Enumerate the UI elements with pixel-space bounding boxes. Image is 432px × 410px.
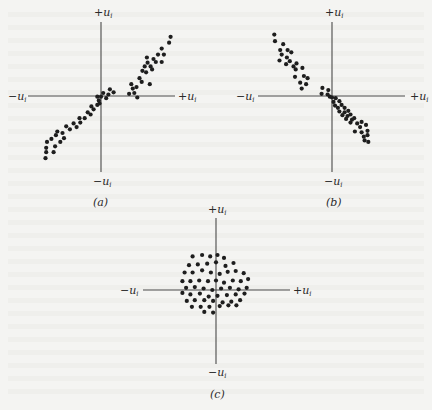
panel-c-point <box>234 269 238 273</box>
panel-c-point <box>210 288 214 292</box>
panel-c-point <box>237 287 241 291</box>
panel-b-point <box>293 75 297 79</box>
panel-a-point <box>49 137 53 141</box>
panel-a-point <box>78 121 82 125</box>
panel-c-point <box>246 277 250 281</box>
panel-c-point <box>205 262 209 266</box>
panel-a-point <box>62 136 66 140</box>
show-through-line <box>8 142 424 147</box>
panel-a-point <box>75 125 79 129</box>
panel-a-point <box>58 140 62 144</box>
panel-c-point <box>199 305 203 309</box>
panel-a-point <box>145 55 149 59</box>
panel-b-point <box>362 135 366 139</box>
panel-c-point <box>191 254 195 258</box>
panel-c-point <box>214 278 218 282</box>
panel-b-point <box>306 76 310 80</box>
show-through-line <box>8 51 424 56</box>
panel-a-caption: (a) <box>93 196 108 209</box>
panel-a-point <box>137 76 141 80</box>
panel-b-point <box>304 82 308 86</box>
panel-a-point <box>140 69 144 73</box>
panel-c-point <box>215 253 219 257</box>
panel-b-point <box>320 86 324 90</box>
panel-a-point <box>104 96 108 100</box>
panel-a-point <box>150 67 154 71</box>
panel-b-point <box>334 96 338 100</box>
panel-b-ylabel-neg: −ui <box>324 175 343 189</box>
panel-a-point <box>54 133 58 137</box>
panel-c-point <box>200 268 204 272</box>
panel-a-point <box>45 140 49 144</box>
panel-b-point <box>300 66 304 70</box>
panel-b-point <box>348 121 352 125</box>
panel-c-point <box>193 298 197 302</box>
panel-a-point <box>156 53 160 57</box>
panel-a-point <box>106 92 110 96</box>
panel-b-point <box>360 130 364 134</box>
panel-a-point <box>52 150 56 154</box>
panel-a-point <box>64 124 68 128</box>
panel-b-point <box>343 106 347 110</box>
panel-a-point <box>108 87 112 91</box>
panel-a-xlabel-pos: +ui <box>178 90 197 104</box>
panel-b-point <box>348 112 352 116</box>
panel-c-point <box>206 279 210 283</box>
panel-b-point <box>281 42 285 46</box>
panel-c-point <box>214 260 218 264</box>
panel-c-point <box>222 281 226 285</box>
panel-b-point <box>298 81 302 85</box>
panel-a-point <box>129 82 133 86</box>
panel-a-point <box>43 156 47 160</box>
panel-b-point <box>352 116 356 120</box>
panel-c-xlabel-neg: −ui <box>120 284 139 298</box>
panel-c-point <box>229 300 233 304</box>
panel-b-point <box>331 100 335 104</box>
panel-c-point <box>211 311 215 315</box>
panel-a-point <box>132 91 136 95</box>
panel-b-point <box>344 117 348 121</box>
panel-c-point <box>211 299 215 303</box>
show-through-line <box>8 25 424 30</box>
panel-a-point <box>92 107 96 111</box>
panel-c-point <box>191 270 195 274</box>
panel-c-point <box>219 286 223 290</box>
panel-b-point <box>358 125 362 129</box>
panel-a-point <box>160 47 164 51</box>
panel-b-xlabel-pos: +ui <box>410 90 429 104</box>
show-through-line <box>8 103 424 108</box>
panel-a-ylabel-pos: +ui <box>94 6 113 20</box>
panel-c-point <box>226 303 230 307</box>
panel-c-point <box>202 310 206 314</box>
panel-a-point <box>112 90 116 94</box>
panel-c-ylabel-neg: −ui <box>208 366 227 380</box>
panel-b-xlabel-neg: −ui <box>236 90 255 104</box>
panel-c-point <box>245 286 249 290</box>
panel-a-point <box>127 92 131 96</box>
panel-c-point <box>200 253 204 257</box>
panel-c-point <box>180 291 184 295</box>
panel-a-point <box>143 64 147 68</box>
panel-c-ylabel-pos: +ui <box>208 203 227 217</box>
panel-b-points <box>272 33 370 144</box>
panel-b-point <box>320 92 324 96</box>
panel-b-point <box>337 109 341 113</box>
panel-c-point <box>215 294 219 298</box>
panel-c-point <box>222 256 226 260</box>
panel-b-caption: (b) <box>326 196 342 209</box>
panel-b-point <box>360 120 364 124</box>
panel-c-point <box>193 285 197 289</box>
show-through-line <box>8 90 424 95</box>
panel-b-point <box>273 39 277 43</box>
panel-a-point <box>160 60 164 64</box>
panel-c-point <box>207 305 211 309</box>
panel-c-point <box>183 270 187 274</box>
panel-a-point <box>148 82 152 86</box>
panel-a-point <box>72 121 76 125</box>
panel-c-point <box>185 299 189 303</box>
panel-b-point <box>355 121 359 125</box>
show-through-line <box>8 64 424 69</box>
panel-b-point <box>300 87 304 91</box>
panel-b-point <box>280 53 284 57</box>
panel-c-point <box>226 270 230 274</box>
